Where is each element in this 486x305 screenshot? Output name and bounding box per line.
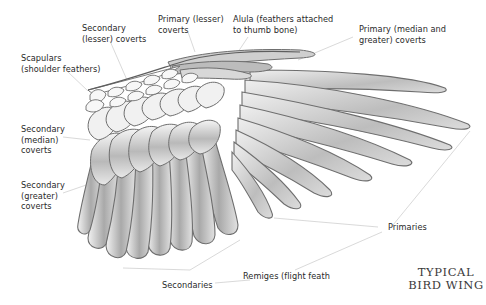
wing-illustration: [0, 0, 486, 305]
diagram-title: TYPICAL BIRD WING: [396, 266, 486, 292]
label-secondary-median-coverts: Secondary (median) coverts: [21, 124, 65, 156]
label-secondary-lesser-coverts: Secondary (lesser) coverts: [82, 23, 146, 44]
label-primary-lesser-coverts: Primary (lesser) coverts: [158, 14, 224, 35]
primaries: [232, 70, 470, 218]
label-alula: Alula (feathers attached to thumb bone): [233, 14, 333, 35]
label-secondary-greater-coverts: Secondary (greater) coverts: [21, 180, 65, 212]
label-primary-median-greater-coverts: Primary (median and greater) coverts: [359, 24, 446, 45]
label-remiges: Remiges (flight feath: [243, 271, 330, 282]
label-secondaries: Secondaries: [162, 280, 213, 291]
label-scapulars: Scapulars (shoulder feathers): [21, 53, 100, 74]
bird-wing-diagram: Secondary (lesser) coverts Primary (less…: [0, 0, 486, 305]
label-primaries: Primaries: [388, 222, 427, 233]
